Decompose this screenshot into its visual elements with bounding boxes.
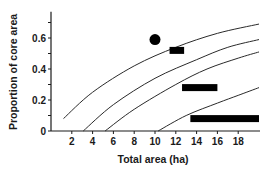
- circle-marker: [150, 34, 161, 45]
- curve-1: [63, 24, 259, 119]
- y-tick-label: 0.2: [32, 95, 46, 106]
- x-tick-label: 2: [69, 136, 75, 147]
- y-tick-label: 0.6: [32, 33, 46, 44]
- y-axis-title: Proportion of core area: [7, 14, 19, 130]
- y-axis: 00.20.40.6: [32, 12, 51, 137]
- x-tick-label: 10: [149, 136, 161, 147]
- x-tick-label: 8: [131, 136, 137, 147]
- x-tick-label: 16: [212, 136, 224, 147]
- x-axis-title: Total area (ha): [118, 153, 189, 165]
- curves: [63, 24, 259, 131]
- curve-4: [158, 88, 259, 131]
- y-tick-label: 0.4: [32, 64, 46, 75]
- bar-marker-2: [182, 84, 217, 91]
- x-tick-label: 6: [111, 136, 117, 147]
- x-tick-label: 14: [191, 136, 203, 147]
- x-tick-label: 12: [170, 136, 182, 147]
- markers: [150, 34, 260, 122]
- bar-marker-1: [170, 47, 185, 54]
- y-tick-label: 0: [40, 126, 46, 137]
- x-tick-label: 18: [233, 136, 245, 147]
- x-tick-label: 4: [90, 136, 96, 147]
- core-area-chart: 00.20.40.6 24681012141618 Total area (ha…: [0, 0, 269, 174]
- x-axis: 24681012141618: [51, 131, 260, 147]
- bar-marker-3: [190, 115, 259, 122]
